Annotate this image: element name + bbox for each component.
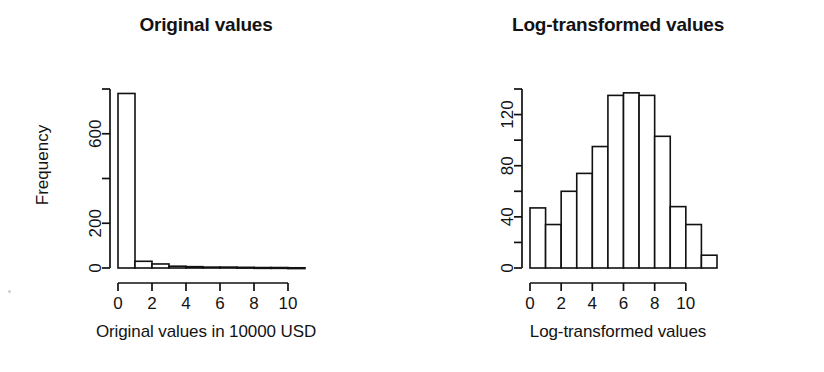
histogram-bar [639,95,655,268]
y-tick-label: 200 [86,209,105,237]
histogram-bar [237,267,254,268]
histogram-bar [624,93,640,268]
figure-canvas: Original values Frequency 02006000246810… [0,0,824,372]
x-tick-label: 10 [676,294,695,313]
x-tick-label: 4 [181,294,190,313]
x-axis: 0246810 [113,283,297,313]
y-tick-label: 0 [86,263,105,272]
x-tick-label: 2 [147,294,156,313]
histogram-panel-log: Log-transformed values Frequency 0408012… [412,0,824,372]
bar-series [118,93,305,268]
x-axis-label-log: Log-transformed values [412,322,824,342]
histogram-bar [530,208,546,268]
histogram-bar [546,225,562,268]
histogram-bar [288,268,305,269]
histogram-bar [592,147,608,268]
histogram-bar [608,95,624,268]
histogram-panel-original: Original values Frequency 02006000246810… [0,0,412,372]
histogram-bar [686,225,702,268]
histogram-bar [271,268,288,269]
histogram-bar [152,264,169,268]
y-axis: 0200600 [86,89,110,273]
x-tick-label: 8 [249,294,258,313]
histogram-bar [655,136,671,268]
histogram-bar [203,267,220,268]
histogram-bar [186,267,203,268]
x-tick-label: 4 [588,294,597,313]
histogram-bar [220,267,237,268]
x-tick-label: 2 [556,294,565,313]
bar-series [530,93,717,268]
histogram-bar [169,266,186,268]
histogram-bar [701,255,717,268]
histogram-bar [561,191,577,268]
histogram-bar [254,268,271,269]
x-tick-label: 6 [215,294,224,313]
histogram-bar [670,207,686,268]
y-axis: 04080120 [498,89,522,273]
y-tick-label: 0 [498,263,517,272]
x-tick-label: 10 [279,294,298,313]
plot-area-log: 040801200246810 [412,0,824,372]
x-tick-label: 0 [525,294,534,313]
y-tick-label: 40 [498,207,517,226]
y-tick-label: 120 [498,100,517,128]
scan-speck [8,290,11,293]
x-axis-label-original: Original values in 10000 USD [0,322,412,342]
y-tick-label: 600 [86,120,105,148]
histogram-bar [577,173,593,268]
x-axis: 0246810 [525,283,695,313]
histogram-bar [135,261,152,268]
x-tick-label: 6 [619,294,628,313]
y-tick-label: 80 [498,156,517,175]
histogram-bar [118,93,135,268]
x-tick-label: 8 [650,294,659,313]
x-tick-label: 0 [113,294,122,313]
plot-area-original: 02006000246810 [0,0,412,372]
